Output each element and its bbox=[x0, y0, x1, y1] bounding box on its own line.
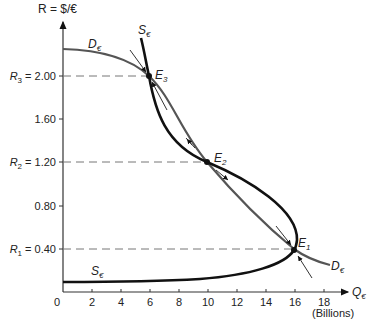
y-axis-title: R = $/€ bbox=[38, 2, 77, 16]
x-axis-title: Q€ bbox=[352, 285, 366, 301]
demand-label-bottom: D€ bbox=[331, 259, 345, 275]
svg-text:2: 2 bbox=[89, 296, 95, 308]
svg-text:4: 4 bbox=[118, 296, 124, 308]
svg-text:Q€: Q€ bbox=[352, 285, 366, 301]
y-tick-080: 0.80 bbox=[35, 200, 56, 212]
e2-label: E2 bbox=[214, 151, 227, 167]
svg-text:8: 8 bbox=[176, 296, 182, 308]
e3-point bbox=[146, 73, 152, 79]
supply-label-bottom: S€ bbox=[91, 264, 104, 280]
svg-text:6: 6 bbox=[147, 296, 153, 308]
y-tick-r1: R1 = 0.40 bbox=[10, 243, 56, 258]
y-tick-r2: R2 = 1.20 bbox=[10, 156, 56, 171]
supply-curve bbox=[63, 38, 297, 282]
reference-lines bbox=[63, 76, 294, 249]
e2-point bbox=[204, 159, 210, 165]
svg-text:10: 10 bbox=[202, 296, 214, 308]
y-tick-labels: R1 = 0.40 0.80 R2 = 1.20 1.60 R3 = 2.00 bbox=[10, 70, 56, 258]
e3-label: E3 bbox=[155, 68, 168, 84]
svg-text:0: 0 bbox=[54, 296, 60, 308]
foreign-exchange-market-chart: R = $/€ Q€ (Billions) R1 = 0.40 0.80 R2 … bbox=[0, 0, 374, 332]
svg-text:12: 12 bbox=[231, 296, 243, 308]
x-tick-labels: 0 2 4 6 8 10 12 14 16 18 bbox=[54, 296, 330, 308]
demand-label-top: D€ bbox=[88, 37, 102, 53]
e1-label: E1 bbox=[298, 236, 310, 252]
svg-text:14: 14 bbox=[260, 296, 272, 308]
y-tick-r3: R3 = 2.00 bbox=[10, 70, 56, 85]
svg-text:16: 16 bbox=[289, 296, 301, 308]
y-tick-160: 1.60 bbox=[35, 113, 56, 125]
e1-point bbox=[291, 247, 297, 253]
x-axis-units: (Billions) bbox=[312, 307, 354, 319]
svg-text:18: 18 bbox=[318, 296, 330, 308]
supply-label-top: S€ bbox=[138, 23, 151, 39]
